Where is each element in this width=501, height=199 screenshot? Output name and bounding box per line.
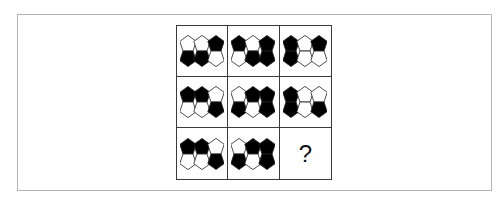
pentagon-top-3 (259, 86, 275, 102)
pentagon-top-1 (231, 86, 247, 102)
pentagon-figure (283, 82, 327, 122)
pentagon-bottom-2 (194, 102, 210, 118)
grid-cell (177, 77, 228, 128)
puzzle-grid: ? (176, 25, 332, 180)
pentagon-bottom-3 (208, 102, 224, 118)
pentagon-bottom-2 (245, 154, 261, 170)
pentagon-bottom-2 (297, 51, 313, 67)
grid-cell (228, 26, 279, 77)
pentagon-bottom-2 (297, 102, 313, 118)
pentagon-top-1 (180, 138, 196, 154)
pentagon-bottom-3 (311, 51, 327, 67)
pentagon-bottom-3 (259, 154, 275, 170)
pentagon-bottom-1 (283, 51, 299, 67)
pentagon-bottom-3 (259, 51, 275, 67)
pentagon-top-3 (208, 138, 224, 154)
pentagon-bottom-1 (231, 51, 247, 67)
pentagon-bottom-3 (208, 154, 224, 170)
pentagon-top-2 (245, 35, 261, 51)
pentagon-bottom-1 (180, 51, 196, 67)
pentagon-bottom-2 (245, 102, 261, 118)
pentagon-top-2 (245, 86, 261, 102)
pentagon-figure (231, 134, 275, 174)
pentagon-figure (180, 82, 224, 122)
pentagon-top-2 (245, 138, 261, 154)
pentagon-figure (180, 134, 224, 174)
pentagon-figure (231, 82, 275, 122)
grid-cell (177, 128, 228, 179)
pentagon-bottom-1 (231, 154, 247, 170)
question-mark: ? (299, 142, 312, 166)
pentagon-top-2 (297, 86, 313, 102)
pentagon-top-1 (283, 35, 299, 51)
pentagon-top-3 (311, 35, 327, 51)
pentagon-top-2 (297, 35, 313, 51)
pentagon-top-3 (208, 86, 224, 102)
pentagon-bottom-1 (231, 102, 247, 118)
pentagon-top-2 (194, 86, 210, 102)
pentagon-figure (283, 31, 327, 71)
pentagon-top-3 (259, 35, 275, 51)
pentagon-bottom-3 (208, 51, 224, 67)
pentagon-top-1 (180, 86, 196, 102)
grid-cell (228, 77, 279, 128)
grid-cell (280, 77, 331, 128)
pentagon-figure (180, 31, 224, 71)
pentagon-top-2 (194, 138, 210, 154)
pentagon-bottom-1 (180, 102, 196, 118)
pentagon-bottom-3 (311, 102, 327, 118)
pentagon-bottom-1 (283, 102, 299, 118)
grid-cell (177, 26, 228, 77)
pentagon-bottom-1 (180, 154, 196, 170)
pentagon-top-2 (194, 35, 210, 51)
pentagon-top-3 (311, 86, 327, 102)
pentagon-top-3 (259, 138, 275, 154)
pentagon-bottom-3 (259, 102, 275, 118)
pentagon-top-1 (231, 138, 247, 154)
pentagon-top-1 (180, 35, 196, 51)
grid-cell (228, 128, 279, 179)
pentagon-bottom-2 (194, 154, 210, 170)
grid-cell (280, 26, 331, 77)
pentagon-bottom-2 (194, 51, 210, 67)
pentagon-bottom-2 (245, 51, 261, 67)
pentagon-top-1 (231, 35, 247, 51)
pentagon-top-1 (283, 86, 299, 102)
pentagon-top-3 (208, 35, 224, 51)
missing-cell[interactable]: ? (280, 128, 331, 179)
pentagon-figure (231, 31, 275, 71)
